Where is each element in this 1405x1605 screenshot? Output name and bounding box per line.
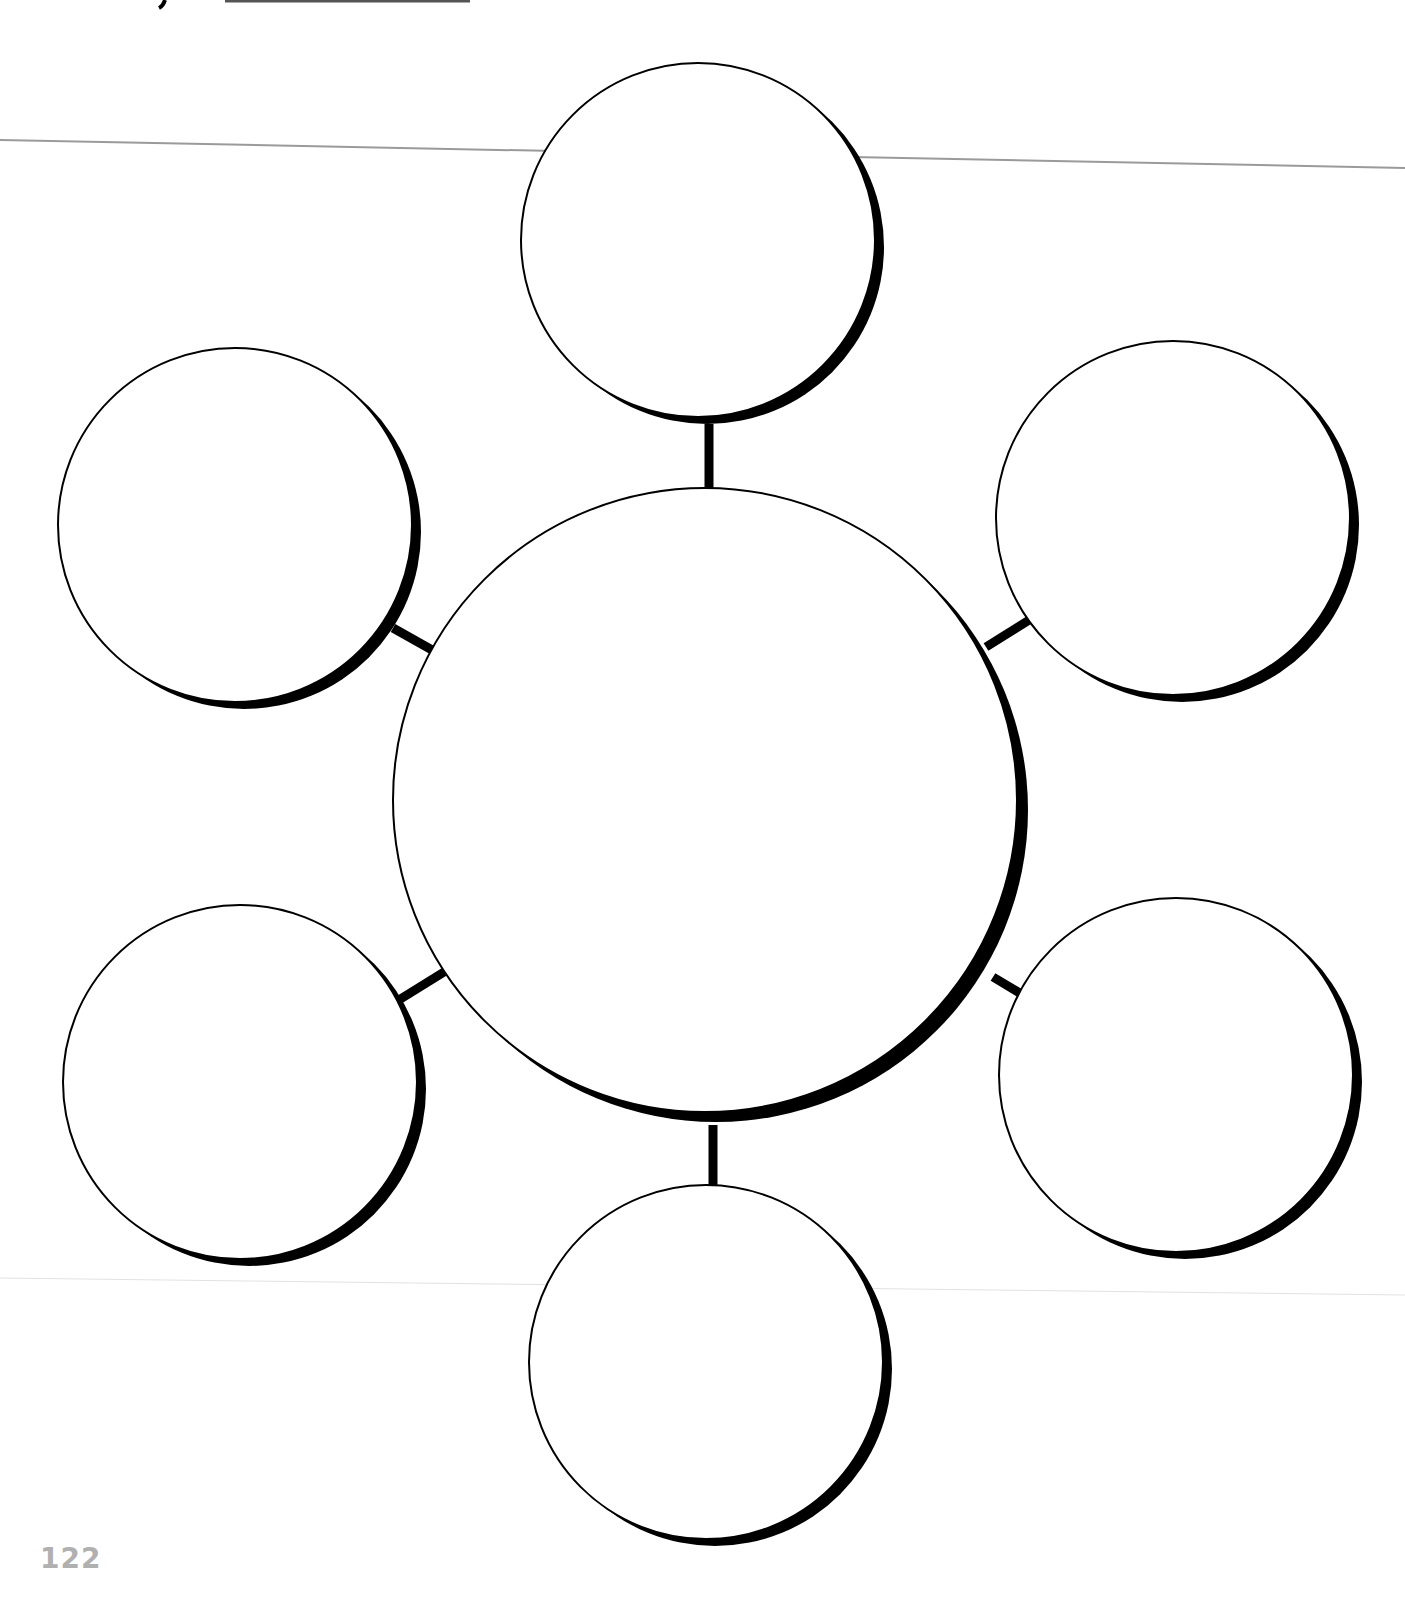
circle-lower-right[interactable] bbox=[999, 898, 1362, 1259]
circle-upper-left[interactable] bbox=[58, 348, 421, 709]
connector-lower-left bbox=[394, 972, 444, 1003]
connector-upper-right bbox=[986, 617, 1034, 647]
header-glyph bbox=[159, 0, 165, 8]
circle-top[interactable] bbox=[521, 63, 884, 424]
circle-center[interactable] bbox=[393, 488, 1028, 1122]
web-organizer-diagram bbox=[0, 0, 1405, 1605]
circle-lower-left[interactable] bbox=[63, 905, 426, 1266]
circle-upper-right[interactable] bbox=[996, 341, 1359, 702]
circle-bottom[interactable] bbox=[529, 1185, 892, 1546]
worksheet-page: 122 bbox=[0, 0, 1405, 1605]
page-number: 122 bbox=[40, 1542, 101, 1575]
